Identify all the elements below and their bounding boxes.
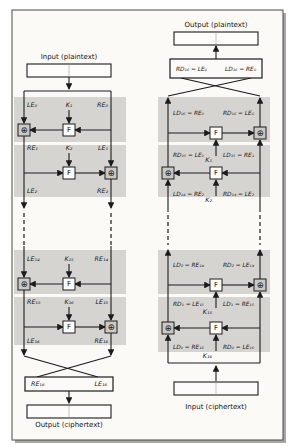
label-k1: K₁ [66, 101, 73, 108]
f-function-box: F [63, 321, 75, 333]
dec-r16-bottom-left-label: LD₀ = RE₁₆ [173, 344, 205, 350]
f-label: F [214, 129, 218, 137]
dec-r15-bottom-left-label: RD₁ = LE₁₅ [173, 301, 205, 307]
xor-glyph: ⊕ [20, 125, 27, 135]
dec-label-k15: K₁₅ [203, 308, 213, 315]
xor-glyph: ⊕ [107, 168, 114, 178]
dec-r15-top-right-label: RD₂ = LE₁₄ [223, 262, 255, 268]
xor-icon: ⊕ [18, 278, 30, 290]
f-label: F [67, 323, 71, 331]
dec-r2-bottom-left-label: LD₁₄ = RE₂ [173, 191, 205, 197]
dec-swap-left-label: RD₁₆ = LE₀ [176, 66, 208, 72]
dec-label-k1: K₁ [205, 156, 212, 163]
xor-icon: ⊕ [18, 124, 30, 136]
xor-icon: ⊕ [162, 322, 174, 334]
f-function-box: F [210, 322, 222, 334]
f-label: F [67, 169, 71, 177]
dec-input-label: Input (ciphertext) [185, 403, 247, 411]
dec-r1-top-left-label: LD₁₆ = RE₀ [173, 110, 205, 116]
dec-output-label: Output (plaintext) [185, 21, 248, 29]
label-le14: LE₁₄ [27, 255, 40, 262]
f-function-box: F [63, 167, 75, 179]
f-function-box: F [210, 127, 222, 139]
xor-glyph: ⊕ [20, 279, 27, 289]
label-re16: RE₁₆ [95, 337, 109, 344]
xor-glyph: ⊕ [256, 128, 263, 138]
xor-icon: ⊕ [254, 127, 266, 139]
enc-swap-right-label: LE₁₆ [94, 380, 107, 387]
dec-r2-bottom-right-label: RD₁₄ = LE₂ [223, 191, 255, 197]
feistel-figure: F F F F ⊕ ⊕ ⊕ ⊕ In [0, 0, 293, 445]
label-re0: RE₀ [97, 101, 108, 108]
dec-r16-bottom-right-label: RD₀ = LE₁₆ [223, 344, 255, 350]
xor-icon: ⊕ [105, 321, 117, 333]
label-re15: RE₁₅ [27, 298, 41, 305]
dec-swap-right-label: LD₁₆ = RE₀ [225, 66, 257, 72]
xor-glyph: ⊕ [164, 168, 171, 178]
dec-r15-top-left-label: LD₂ = RE₁₄ [173, 262, 205, 268]
f-function-box: F [63, 124, 75, 136]
f-label: F [214, 281, 218, 289]
f-function-box: F [210, 279, 222, 291]
label-le15: LE₁₅ [95, 298, 108, 305]
dec-r15-bottom-right-label: LD₁ = RE₁₅ [223, 301, 255, 307]
xor-icon: ⊕ [105, 167, 117, 179]
label-re14: RE₁₄ [95, 255, 109, 262]
xor-glyph: ⊕ [256, 280, 263, 290]
label-le2: LE₂ [27, 187, 37, 194]
dec-r1-bottom-left-label: RD₁₅ = LE₁ [173, 152, 205, 158]
dec-label-k2: K₂ [205, 196, 212, 203]
label-le0: LE₀ [27, 101, 37, 108]
label-k15: K₁₅ [64, 255, 74, 262]
f-label: F [67, 126, 71, 134]
f-label: F [214, 324, 218, 332]
dec-r1-top-right-label: RD₁₆ = LE₀ [223, 110, 255, 116]
f-label: F [214, 169, 218, 177]
label-re2: RE₂ [97, 187, 108, 194]
label-k16: K₁₆ [64, 298, 74, 305]
label-k2: K₂ [66, 144, 73, 151]
xor-icon: ⊕ [162, 167, 174, 179]
f-label: F [67, 280, 71, 288]
f-function-box: F [210, 167, 222, 179]
label-re1: RE₁ [27, 144, 38, 151]
dec-r1-bottom-right-label: LD₁₅ = RE₁ [223, 152, 255, 158]
enc-input-label: Input (plaintext) [41, 53, 98, 61]
xor-glyph: ⊕ [107, 322, 114, 332]
enc-swap-left-label: RE₁₆ [31, 380, 45, 387]
feistel-diagram: F F F F ⊕ ⊕ ⊕ ⊕ In [0, 0, 293, 445]
label-le1: LE₁ [98, 144, 108, 151]
f-function-box: F [63, 278, 75, 290]
xor-icon: ⊕ [254, 279, 266, 291]
dec-label-k16: K₁₆ [203, 352, 213, 359]
label-le16: LE₁₆ [27, 337, 40, 344]
xor-glyph: ⊕ [164, 323, 171, 333]
enc-output-label: Output (ciphertext) [35, 421, 103, 429]
